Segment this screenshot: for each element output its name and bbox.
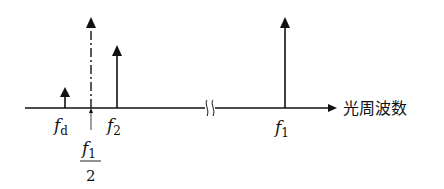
f1-half-numerator: f1 (80, 138, 96, 161)
axis-arrowhead-icon (328, 104, 337, 112)
axis-break-mark-icon (212, 100, 214, 116)
fd-arrowhead-icon (60, 87, 70, 97)
f2-label: f2 (105, 115, 121, 138)
f1-half-leader-arrow-icon (89, 108, 93, 113)
spectrum-diagram: fd f2 f1 f1 2 光周波数 (0, 0, 444, 189)
f1-arrowhead-icon (280, 17, 290, 28)
fd-label: fd (52, 115, 68, 138)
f1-label: f1 (273, 117, 289, 140)
f1-half-denominator: 2 (86, 167, 96, 185)
f1-half-arrowhead-icon (86, 17, 96, 28)
axis-label: 光周波数 (343, 99, 407, 118)
axis-break-mark-icon (206, 100, 208, 116)
f2-arrowhead-icon (112, 45, 122, 56)
